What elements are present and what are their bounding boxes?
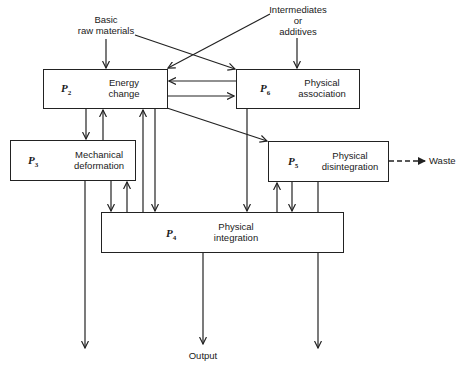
node-id: P3 — [28, 154, 38, 169]
node-id: P4 — [166, 227, 176, 242]
node-label: Mechanical deformation — [69, 149, 129, 171]
node-label: Physical disintegration — [317, 150, 383, 172]
input-raw-materials: Basic raw materials — [74, 14, 138, 36]
waste-arrowhead-icon — [418, 157, 426, 165]
arrow-inter-to-p2 — [168, 14, 270, 68]
output-label: Output — [183, 350, 223, 361]
node-label: Physical association — [292, 77, 352, 99]
arrow-p2-to-p5 — [167, 108, 267, 141]
node-label: Physical integration — [206, 221, 266, 243]
node-id: P6 — [260, 82, 270, 97]
node-label: Energy change — [99, 77, 149, 99]
node-p5-physical-disintegration: P5 Physical disintegration — [268, 141, 389, 182]
node-p6-physical-association: P6 Physical association — [236, 69, 360, 109]
node-p3-mechanical-deformation: P3 Mechanical deformation — [10, 140, 136, 181]
output-waste: Waste — [429, 155, 461, 166]
flow-arrows — [0, 0, 462, 368]
input-intermediates: Intermediates or additives — [268, 4, 328, 37]
node-p2-energy-change: P2 Energy change — [43, 69, 168, 109]
node-id: P2 — [61, 82, 71, 97]
node-id: P5 — [288, 155, 298, 170]
node-p4-physical-integration: P4 Physical integration — [101, 212, 344, 253]
